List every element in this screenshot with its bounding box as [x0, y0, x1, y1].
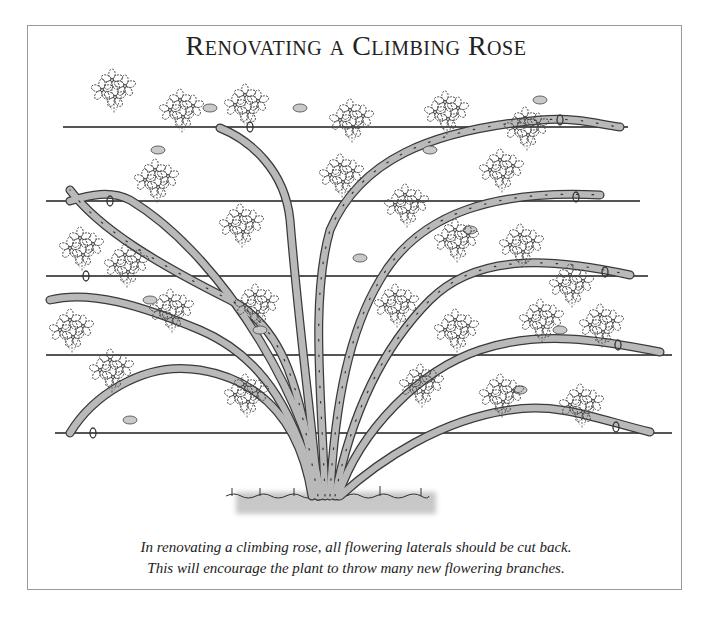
caption-line-2: This will encourage the plant to throw m… [0, 558, 712, 579]
figure-caption: In renovating a climbing rose, all flowe… [0, 537, 712, 579]
climbing-rose-illustration [0, 0, 712, 619]
support-wires [46, 127, 672, 433]
caption-line-1: In renovating a climbing rose, all flowe… [0, 537, 712, 558]
